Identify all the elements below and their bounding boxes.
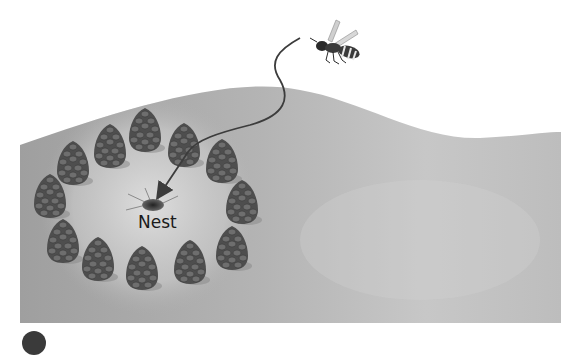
step-marker-icon [22, 331, 46, 355]
wasp-icon [310, 20, 361, 64]
nest-label: Nest [138, 212, 177, 232]
